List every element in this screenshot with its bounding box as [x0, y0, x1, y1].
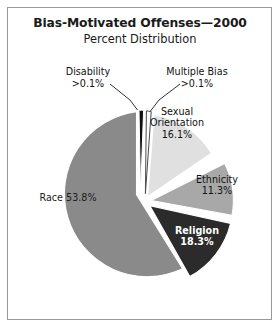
pie-chart [0, 0, 280, 330]
slice-label-sexual-orientation-line2: Orientation [140, 117, 214, 128]
slice-label-sexual-orientation: Sexual Orientation 16.1% [140, 106, 214, 140]
callout-disability: Disability >0.1% [49, 66, 127, 89]
callout-multiple-bias: Multiple Bias >0.1% [150, 66, 244, 89]
chart-screenshot: Bias-Motivated Offenses—2000 Percent Dis… [0, 0, 280, 330]
slice-label-ethnicity: Ethnicity 11.3% [180, 174, 254, 197]
slice-label-ethnicity-value: 11.3% [180, 185, 254, 196]
slice-label-religion-name: Religion [160, 225, 234, 236]
slice-label-ethnicity-name: Ethnicity [180, 174, 254, 185]
callout-multiple-bias-name: Multiple Bias [150, 66, 244, 78]
slice-label-sexual-orientation-value: 16.1% [140, 129, 214, 140]
slice-label-religion-value: 18.3% [160, 236, 234, 247]
callout-disability-value: >0.1% [49, 78, 127, 90]
slice-label-religion: Religion 18.3% [160, 225, 234, 248]
callout-multiple-bias-value: >0.1% [150, 78, 244, 90]
slice-label-race: Race 53.8% [20, 192, 116, 203]
slice-label-race-text: Race 53.8% [20, 192, 116, 203]
callout-disability-name: Disability [49, 66, 127, 78]
slice-label-sexual-orientation-line1: Sexual [140, 106, 214, 117]
